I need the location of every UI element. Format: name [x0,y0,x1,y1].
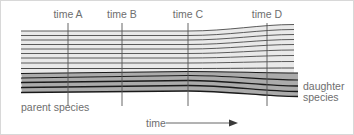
diagram-canvas: time Atime Btime Ctime D parent species … [1,1,354,135]
time-marker-label-time-a: time A [53,8,82,20]
time-marker-label-time-c: time C [173,8,204,20]
lineage-line [21,68,294,69]
daughter-species-label-line2: species [303,91,339,103]
speciation-diagram: time Atime Btime Ctime D parent species … [0,0,354,135]
time-marker-label-time-b: time B [107,8,137,20]
parent-species-label: parent species [21,101,89,113]
time-marker-labels: time Atime Btime Ctime D [53,8,282,20]
time-marker-label-time-d: time D [252,8,283,20]
time-axis-arrowhead [229,120,238,127]
time-axis-label: time [146,117,166,129]
